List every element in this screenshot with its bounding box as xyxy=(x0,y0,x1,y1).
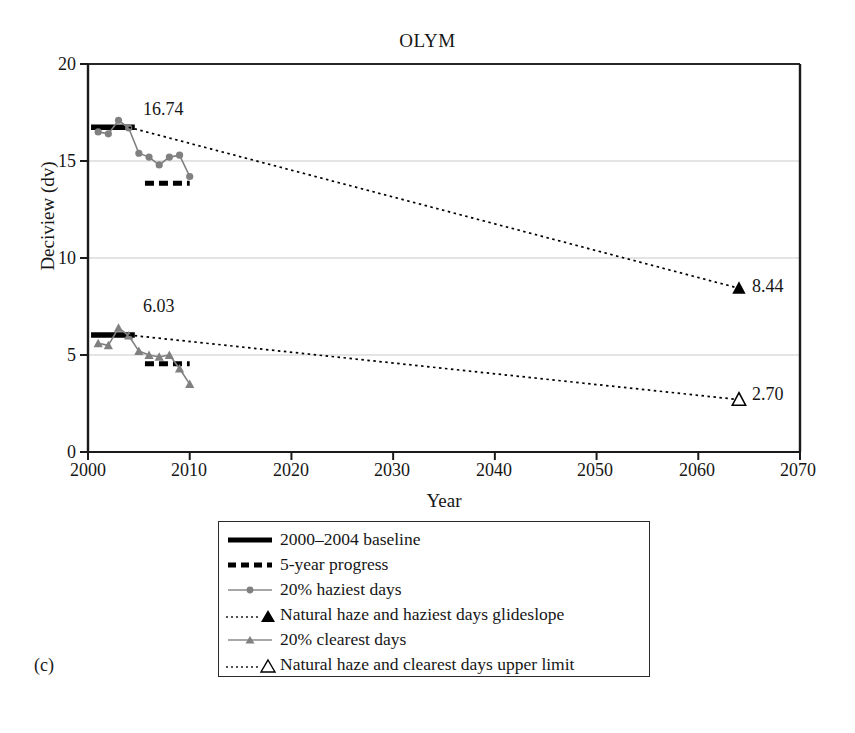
legend-label-haziest-glideslope: Natural haze and haziest days glideslope xyxy=(280,606,564,624)
annotation-glideslope-haziest: 8.44 xyxy=(752,276,784,297)
legend-item-haziest-glideslope[interactable]: Natural haze and haziest days glideslope xyxy=(224,602,648,627)
legend-label-clearest-limit: Natural haze and clearest days upper lim… xyxy=(280,656,574,674)
legend: 2000–2004 baseline 5-year progress 20% h… xyxy=(224,527,648,677)
legend-item-baseline[interactable]: 2000–2004 baseline xyxy=(224,527,648,552)
gray-line-triangle-marker-icon xyxy=(224,628,280,652)
figure-panel: OLYM Deciview (dv) Year 20 15 10 5 0 200… xyxy=(0,0,855,733)
solid-thick-line-icon xyxy=(224,528,280,552)
dashed-thick-line-icon xyxy=(224,553,280,577)
legend-item-clearest[interactable]: 20% clearest days xyxy=(224,627,648,652)
legend-label-haziest: 20% haziest days xyxy=(280,581,402,599)
axis-ticks xyxy=(80,64,800,460)
legend-item-haziest[interactable]: 20% haziest days xyxy=(224,577,648,602)
dotted-line-filled-triangle-icon xyxy=(224,603,280,627)
gray-line-circle-marker-icon xyxy=(224,578,280,602)
panel-label: (c) xyxy=(34,655,54,676)
legend-item-clearest-limit[interactable]: Natural haze and clearest days upper lim… xyxy=(224,652,648,677)
annotation-baseline-haziest: 16.74 xyxy=(143,99,184,120)
data-series-layer xyxy=(91,117,746,406)
legend-item-progress[interactable]: 5-year progress xyxy=(224,552,648,577)
gridlines xyxy=(88,64,800,355)
legend-label-progress: 5-year progress xyxy=(280,556,388,574)
annotation-baseline-clearest: 6.03 xyxy=(143,296,175,317)
legend-label-baseline: 2000–2004 baseline xyxy=(280,531,420,549)
dotted-line-open-triangle-icon xyxy=(224,653,280,677)
annotation-glideslope-clearest: 2.70 xyxy=(752,384,784,405)
legend-label-clearest: 20% clearest days xyxy=(280,631,406,649)
